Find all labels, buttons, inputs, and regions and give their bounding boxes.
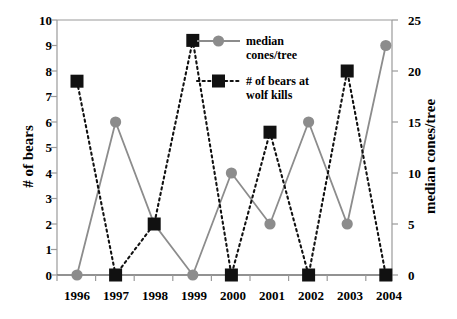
circle-marker-icon <box>213 35 224 46</box>
data-point-bears-2004 <box>379 269 392 282</box>
data-point-bears-2001 <box>264 126 277 139</box>
legend <box>197 35 240 87</box>
legend-sample-cones <box>197 35 240 46</box>
data-point-bears-1997 <box>109 269 122 282</box>
chart-figure: # of bears median cones/tree 10 9 8 7 6 … <box>0 0 457 319</box>
data-point-cones-2001 <box>264 218 275 229</box>
data-point-cones-2003 <box>342 218 353 229</box>
legend-sample-bears <box>197 75 240 88</box>
data-point-cones-2000 <box>226 167 237 178</box>
data-point-bears-2002 <box>302 269 315 282</box>
series-bears-at-wolf-kills <box>71 34 393 282</box>
data-point-cones-2004 <box>380 40 391 51</box>
data-point-cones-1996 <box>71 269 82 280</box>
data-point-cones-1999 <box>187 269 198 280</box>
y-axis-left-ticks <box>51 20 57 275</box>
data-point-bears-1998 <box>148 218 161 231</box>
y-axis-right-ticks <box>392 20 398 275</box>
data-point-bears-2003 <box>341 65 354 78</box>
data-point-cones-1997 <box>110 116 121 127</box>
plot-canvas <box>0 0 457 319</box>
data-point-cones-2002 <box>303 116 314 127</box>
data-point-bears-1996 <box>71 75 84 88</box>
data-point-bears-2000 <box>225 269 238 282</box>
square-marker-icon <box>212 75 225 88</box>
x-axis-ticks <box>57 275 392 281</box>
